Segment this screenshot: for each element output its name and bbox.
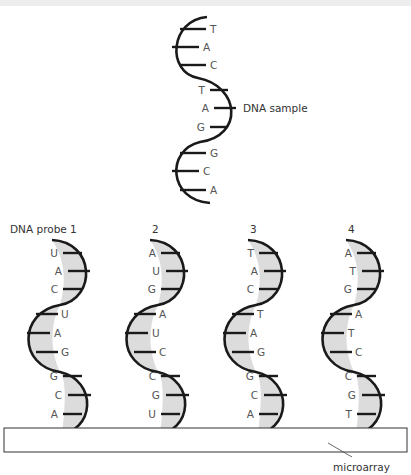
probe-base: A — [355, 308, 363, 320]
probe-base: G — [246, 370, 254, 382]
probe-base: G — [61, 346, 69, 358]
probe-base: U — [148, 408, 156, 420]
sample-base: A — [210, 184, 218, 196]
sample-base: G — [210, 147, 218, 159]
sample-base: A — [203, 41, 211, 53]
probe-2: 2AUGAUCCGU — [125, 223, 189, 436]
sample-base: T — [209, 23, 217, 35]
probe-base: T — [347, 327, 355, 339]
probe-base: U — [152, 265, 160, 277]
probe-base: T — [247, 247, 255, 259]
probe-base: C — [51, 283, 58, 295]
dna-sample-strand: TACTAGGCA DNA sample — [172, 17, 308, 203]
probe-base: C — [251, 389, 258, 401]
sample-base: G — [197, 121, 205, 133]
probe-base: A — [51, 408, 59, 420]
probe-base: A — [159, 308, 167, 320]
probe-base: T — [256, 308, 264, 320]
dna-microarray-diagram: TACTAGGCA DNA sample DNA probe 1UACUAGGC… — [0, 0, 411, 475]
probe-4: 4ATGATCCGT — [321, 223, 385, 436]
probe-base: A — [345, 247, 353, 259]
probe-base: U — [61, 308, 69, 320]
probe-base: A — [55, 265, 63, 277]
sample-base: C — [210, 59, 217, 71]
probe-base: C — [159, 346, 166, 358]
probe-base: A — [149, 247, 157, 259]
probe-label: 3 — [250, 223, 257, 235]
dna-sample-label: DNA sample — [243, 102, 308, 114]
probe-base: C — [345, 370, 352, 382]
probe-base: G — [152, 389, 160, 401]
microarray-slide — [4, 428, 407, 452]
microarray-label: microarray — [333, 461, 390, 473]
probe-base: G — [344, 283, 352, 295]
probe-base: C — [55, 389, 62, 401]
probe-label: DNA probe 1 — [10, 223, 77, 235]
probe-1: DNA probe 1UACUAGGCA — [10, 223, 91, 436]
sample-base: A — [202, 102, 210, 114]
probe-base: T — [345, 408, 353, 420]
probe-base: T — [349, 265, 357, 277]
probe-group: DNA probe 1UACUAGGCA2AUGAUCCGU3TACTAGGCA… — [10, 223, 385, 436]
probe-label: 4 — [348, 223, 355, 235]
probe-3: 3TACTAGGCA — [223, 223, 287, 436]
probe-base: U — [152, 327, 160, 339]
sample-base: C — [203, 165, 210, 177]
probe-base: A — [247, 408, 255, 420]
sample-base: T — [198, 84, 206, 96]
probe-base: G — [148, 283, 156, 295]
probe-label: 2 — [152, 223, 159, 235]
probe-base: A — [54, 327, 62, 339]
probe-base: U — [50, 247, 58, 259]
probe-base: G — [257, 346, 265, 358]
probe-base: A — [250, 327, 258, 339]
probe-base: C — [247, 283, 254, 295]
probe-base: A — [251, 265, 259, 277]
probe-base: G — [348, 389, 356, 401]
probe-base: G — [50, 370, 58, 382]
probe-base: C — [355, 346, 362, 358]
probe-base: C — [149, 370, 156, 382]
